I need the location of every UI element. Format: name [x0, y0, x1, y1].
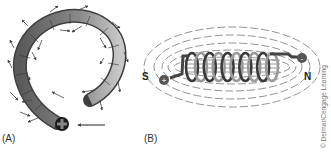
terminal-negative: -: [297, 53, 307, 63]
panel-a: (A): [2, 6, 128, 144]
coil-turn: [266, 53, 278, 81]
panel-a-label: (A): [2, 133, 15, 144]
terminal-positive: +: [159, 75, 169, 85]
pole-north-label: N: [304, 71, 311, 82]
current-plus-symbol: [55, 117, 69, 131]
conductor-loop-fill: [20, 16, 120, 123]
figure-canvas: (A) - + S N: [0, 0, 331, 152]
flux-lines: [144, 27, 320, 107]
lead-wire-right: [270, 54, 300, 57]
pole-south-label: S: [142, 71, 149, 82]
svg-text:+: +: [162, 77, 166, 84]
credit-text: © Delmar/Cengage Learning: [320, 65, 328, 148]
coil: [186, 53, 278, 81]
panel-b: - + S N (B): [142, 27, 320, 144]
panel-b-label: (B): [144, 133, 157, 144]
